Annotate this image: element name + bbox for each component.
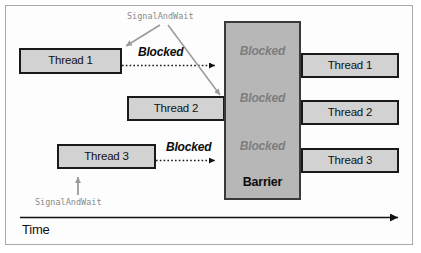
barrier-label: Barrier	[224, 175, 301, 189]
arrow-layer	[0, 0, 421, 253]
exit-box-thread-1-label: Thread 1	[328, 60, 372, 72]
entry-box-thread-3[interactable]: Thread 3	[57, 144, 156, 169]
exit-box-thread-1[interactable]: Thread 1	[301, 53, 399, 78]
blocked-marker-thread-1: Blocked	[138, 45, 183, 59]
blocked-marker-thread-3: Blocked	[166, 140, 211, 154]
exit-box-thread-2-label: Thread 2	[328, 107, 372, 119]
entry-box-thread-3-label: Thread 3	[84, 151, 128, 163]
exit-box-thread-3-label: Thread 3	[328, 155, 372, 167]
time-axis-label: Time	[22, 222, 50, 237]
signal-and-wait-annotation-bottom: SignalAndWait	[35, 197, 102, 207]
exit-box-thread-3[interactable]: Thread 3	[301, 148, 399, 173]
barrier-blocked-label-1: Blocked	[224, 44, 301, 58]
signal-pointer-thread-1	[126, 25, 160, 46]
barrier-diagram: Thread 1 Thread 2 Thread 3 Blocked Block…	[0, 0, 421, 253]
signal-and-wait-annotation-top: SignalAndWait	[127, 11, 194, 21]
signal-pointer-thread-2	[168, 25, 220, 95]
barrier-blocked-label-3: Blocked	[224, 139, 301, 153]
entry-box-thread-1[interactable]: Thread 1	[19, 48, 122, 74]
barrier-blocked-label-2: Blocked	[224, 91, 301, 105]
entry-box-thread-2-label: Thread 2	[154, 103, 198, 115]
entry-box-thread-1-label: Thread 1	[48, 55, 92, 67]
entry-box-thread-2[interactable]: Thread 2	[127, 96, 225, 121]
exit-box-thread-2[interactable]: Thread 2	[301, 100, 399, 125]
